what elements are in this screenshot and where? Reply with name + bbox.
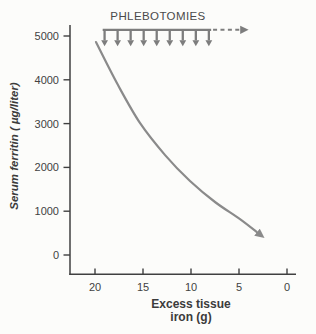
y-tick-label: 0 — [53, 249, 59, 261]
phlebotomy-arrow-icon — [166, 30, 173, 47]
x-tick-label: 20 — [89, 281, 101, 293]
x-tick-label: 15 — [137, 281, 149, 293]
y-tick-label: 5000 — [35, 30, 59, 42]
x-axis-label: Excess tissue iron (g) — [151, 298, 230, 324]
serum-ferritin-curve — [96, 42, 258, 233]
y-tick-label: 1000 — [35, 205, 59, 217]
x-axis-label-line2: iron (g) — [151, 311, 230, 324]
y-tick-label: 3000 — [35, 118, 59, 130]
x-tick-label: 10 — [185, 281, 197, 293]
y-tick-label: 2000 — [35, 161, 59, 173]
y-tick-label: 4000 — [35, 74, 59, 86]
x-tick-label: 5 — [236, 281, 242, 293]
phlebotomy-arrow-icon — [127, 30, 134, 47]
phlebotomy-dashed-arrowhead-icon — [240, 26, 248, 34]
phlebotomies-label: PHLEBOTOMIES — [110, 10, 205, 22]
phlebotomy-arrow-icon — [140, 30, 147, 47]
figure-root: 01000200030004000500020151050 PHLEBOTOMI… — [0, 0, 316, 334]
phlebotomies-annotation — [101, 26, 248, 47]
phlebotomy-arrow-icon — [114, 30, 121, 47]
phlebotomy-arrow-icon — [101, 30, 108, 47]
phlebotomy-arrow-icon — [179, 30, 186, 47]
phlebotomy-arrow-icon — [153, 30, 160, 47]
x-tick-label: 0 — [284, 281, 290, 293]
y-axis-label: Serum ferritin ( µg/liter) — [8, 82, 20, 209]
phlebotomy-arrow-icon — [205, 30, 212, 47]
phlebotomy-arrow-icon — [192, 30, 199, 47]
chart-svg: 01000200030004000500020151050 — [0, 0, 316, 334]
